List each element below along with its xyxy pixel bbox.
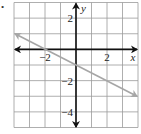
tick-labels: −222−2−4xy	[39, 2, 135, 118]
y-axis-label: y	[80, 2, 86, 14]
y-tick-label: −4	[61, 106, 73, 118]
x-tick-label: −2	[39, 51, 51, 63]
x-axis-label: x	[130, 51, 136, 63]
coordinate-plane: −222−2−4xy	[0, 0, 141, 134]
y-tick-label: −2	[61, 75, 73, 87]
y-tick-label: 2	[68, 12, 74, 24]
x-tick-label: 2	[104, 51, 110, 63]
